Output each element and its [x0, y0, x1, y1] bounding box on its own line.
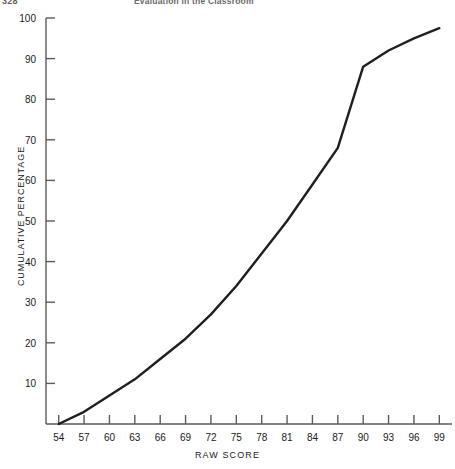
x-tick-label: 84	[307, 432, 318, 443]
x-tick-label: 78	[256, 432, 267, 443]
x-tick-label: 60	[104, 432, 115, 443]
y-axis-title: CUMULATIVE PERCENTAGE	[16, 116, 26, 316]
x-tick-label: 81	[282, 432, 293, 443]
x-tick-label: 69	[180, 432, 191, 443]
x-tick-label: 90	[358, 432, 369, 443]
y-tick-label: 20	[4, 337, 36, 348]
cumulative-percentage-line	[59, 28, 440, 424]
x-tick-label: 99	[434, 432, 445, 443]
x-tick-label: 93	[383, 432, 394, 443]
y-tick-label: 100	[4, 13, 36, 24]
x-axis-title: RAW SCORE	[0, 450, 455, 460]
y-tick-label: 80	[4, 94, 36, 105]
y-tick-label: 10	[4, 378, 36, 389]
x-tick-label: 66	[155, 432, 166, 443]
y-axis-ticks	[46, 18, 55, 383]
ogive-chart: 102030405060708090100 545760636669727578…	[0, 0, 455, 469]
x-tick-label: 54	[53, 432, 64, 443]
x-axis-ticks	[59, 415, 440, 424]
x-tick-label: 63	[129, 432, 140, 443]
x-tick-label: 57	[79, 432, 90, 443]
chart-canvas	[0, 0, 455, 469]
x-tick-label: 96	[408, 432, 419, 443]
x-tick-label: 72	[205, 432, 216, 443]
x-tick-label: 75	[231, 432, 242, 443]
x-tick-label: 87	[332, 432, 343, 443]
y-tick-label: 90	[4, 53, 36, 64]
